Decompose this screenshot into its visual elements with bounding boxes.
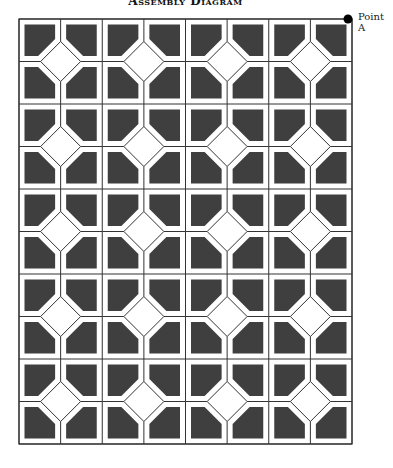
point-a-label: Point A	[358, 11, 393, 33]
assembly-diagram-grid	[0, 0, 393, 468]
point-a-dot-icon	[344, 15, 353, 24]
